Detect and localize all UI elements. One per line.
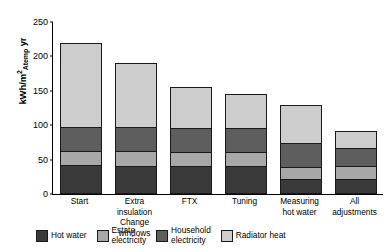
stacked-bar[interactable] — [280, 105, 322, 194]
bar-segment[interactable] — [281, 180, 321, 193]
bar-chart-figure: kWh/m2Atemp yr 050100150200250 StartExtr… — [0, 0, 387, 252]
bar-segment[interactable] — [226, 153, 266, 167]
bar-segment[interactable] — [171, 129, 211, 153]
stacked-bar[interactable] — [170, 87, 212, 194]
legend-label: Estate electricity — [112, 226, 147, 245]
bar-series-container — [53, 22, 383, 194]
legend-color-swatch — [156, 230, 168, 242]
legend-label: Household electricity — [171, 226, 211, 245]
legend-label: Radiator heat — [236, 231, 286, 241]
y-axis-tick-label: 250 — [18, 17, 53, 27]
bar-segment[interactable] — [336, 132, 376, 149]
bar-segment[interactable] — [171, 153, 211, 167]
legend-item[interactable]: Estate electricity — [97, 226, 147, 245]
y-axis-tick-label: 100 — [18, 120, 53, 130]
bar-segment[interactable] — [336, 180, 376, 193]
bar-segment[interactable] — [116, 128, 156, 152]
bar-segment[interactable] — [116, 152, 156, 166]
chart-legend: Hot waterEstate electricityHousehold ele… — [36, 226, 366, 245]
bar-segment[interactable] — [226, 167, 266, 193]
bar-column — [53, 22, 108, 194]
stacked-bar[interactable] — [335, 131, 377, 194]
bar-segment[interactable] — [171, 88, 211, 128]
bar-segment[interactable] — [281, 144, 321, 168]
legend-color-swatch — [97, 230, 109, 242]
bar-column — [328, 22, 383, 194]
x-axis-label: Measuring hot water — [272, 196, 327, 224]
x-axis-label: Tuning — [217, 196, 272, 224]
y-axis-title-exponent: 2 — [16, 70, 23, 74]
bar-segment[interactable] — [61, 128, 101, 152]
bar-column — [163, 22, 218, 194]
plot-area: 050100150200250 — [52, 22, 383, 195]
legend-color-swatch — [36, 230, 48, 242]
x-axis-label: All adjustments — [327, 196, 382, 224]
stacked-bar[interactable] — [225, 94, 267, 194]
x-axis-label: FTX — [162, 196, 217, 224]
x-axis-label: Start — [52, 196, 107, 224]
bar-segment[interactable] — [61, 152, 101, 166]
y-axis-tick-label: 150 — [18, 86, 53, 96]
x-axis-label: Extra insulation Change windows — [107, 196, 162, 224]
bar-segment[interactable] — [171, 167, 211, 193]
legend-item[interactable]: Radiator heat — [221, 230, 286, 242]
legend-item[interactable]: Hot water — [36, 230, 87, 242]
bar-column — [273, 22, 328, 194]
bar-segment[interactable] — [226, 129, 266, 153]
legend-item[interactable]: Household electricity — [156, 226, 211, 245]
y-axis-title-suffix: yr — [17, 38, 28, 49]
bar-segment[interactable] — [116, 167, 156, 193]
legend-label: Hot water — [51, 231, 87, 241]
bar-column — [108, 22, 163, 194]
bar-segment[interactable] — [226, 95, 266, 129]
y-axis-tick-label: 200 — [18, 51, 53, 61]
bar-segment[interactable] — [281, 168, 321, 180]
stacked-bar[interactable] — [60, 43, 102, 194]
bar-segment[interactable] — [61, 166, 101, 193]
y-axis-tick-label: 0 — [18, 189, 53, 199]
y-axis-tick-label: 50 — [18, 155, 53, 165]
bar-segment[interactable] — [281, 106, 321, 145]
x-axis-category-labels: StartExtra insulation Change windowsFTXT… — [52, 196, 382, 224]
bar-segment[interactable] — [116, 64, 156, 128]
bar-column — [218, 22, 273, 194]
legend-color-swatch — [221, 230, 233, 242]
bar-segment[interactable] — [336, 167, 376, 181]
bar-segment[interactable] — [61, 44, 101, 128]
bar-segment[interactable] — [336, 149, 376, 167]
stacked-bar[interactable] — [115, 63, 157, 194]
y-axis-title: kWh/m2Atemp yr — [16, 11, 28, 131]
